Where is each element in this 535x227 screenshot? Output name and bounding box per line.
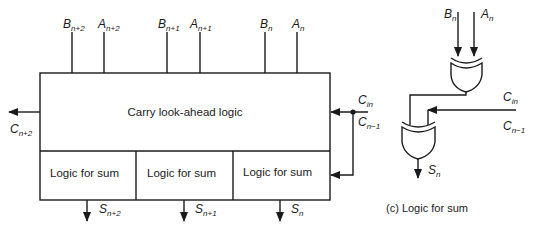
cla-label: Carry look-ahead logic: [127, 106, 242, 118]
label-b-n2: Bn+2: [63, 17, 85, 33]
sum-block-label-1: Logic for sum: [50, 167, 119, 179]
label-c-n2: Cn+2: [10, 122, 33, 138]
detail-label-a-n: An: [480, 7, 494, 23]
detail-label-b-n: Bn: [444, 7, 457, 23]
detail-label-s-n: Sn: [428, 163, 441, 179]
label-c-in: Cin: [358, 93, 373, 109]
detail-label-c-in: Cin: [503, 90, 518, 106]
carry-lookahead-block: Carry look-ahead logic Logic for sum Log…: [40, 73, 330, 200]
carry-lookahead-diagram: Carry look-ahead logic Logic for sum Log…: [0, 0, 535, 227]
carry-out: Cn+2: [9, 112, 40, 138]
label-b-n: Bn: [260, 17, 273, 33]
figure-caption: (c) Logic for sum: [386, 202, 468, 214]
sum-block-label-2: Logic for sum: [147, 167, 216, 179]
sum-logic-detail: Bn An Cin Cn−1 Sn (c) Logic for sum: [386, 7, 525, 214]
input-lines: [72, 32, 297, 73]
label-c-n-minus-1: Cn−1: [358, 115, 380, 131]
label-b-n1: Bn+1: [158, 17, 180, 33]
detail-label-c-n-minus-1: Cn−1: [503, 119, 525, 135]
label-a-n1: An+1: [189, 17, 212, 33]
label-s-n: Sn: [291, 202, 304, 218]
sum-outputs: Sn+2 Sn+1 Sn: [87, 200, 304, 221]
sum-block-label-3: Logic for sum: [243, 166, 312, 178]
label-a-n2: An+2: [97, 17, 120, 33]
input-labels: Bn+2 An+2 Bn+1 An+1 Bn An: [63, 17, 305, 33]
carry-feed-arrow-icon: [331, 112, 353, 175]
label-a-n: An: [291, 17, 305, 33]
label-s-n2: Sn+2: [99, 202, 121, 218]
xor-gate-icon: [402, 122, 435, 159]
xor-gate-icon: [451, 58, 482, 92]
carry-in: Cin Cn−1: [331, 93, 380, 175]
label-s-n1: Sn+1: [195, 202, 217, 218]
